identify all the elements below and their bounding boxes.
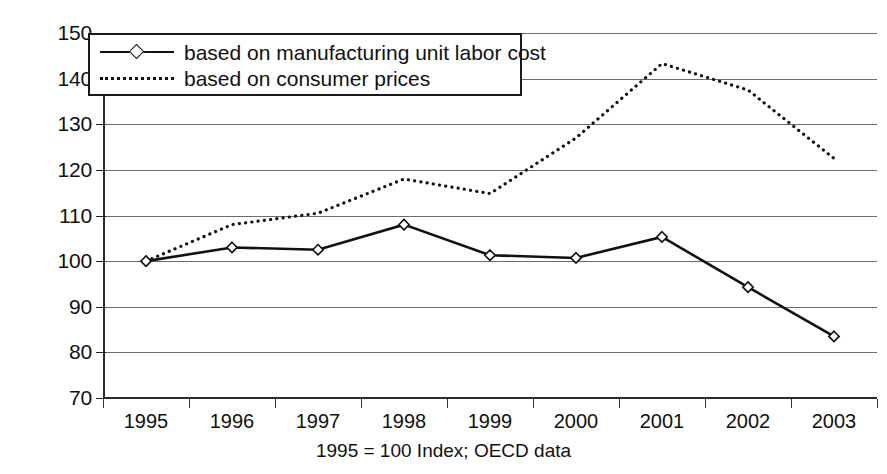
data-point-marker xyxy=(829,331,839,341)
legend-key-dotted-icon xyxy=(100,68,174,88)
data-point-marker xyxy=(571,253,581,263)
data-point-marker xyxy=(657,232,667,242)
legend-label-consumer-prices: based on consumer prices xyxy=(184,67,430,90)
chart-caption: 1995 = 100 Index; OECD data xyxy=(0,440,887,462)
legend-item-consumer-prices: based on consumer prices xyxy=(100,65,430,91)
series-line-manufacturing-unit-labor-cost xyxy=(146,225,834,337)
chart-figure: 150140130120110100908070 199519961997199… xyxy=(0,0,887,474)
legend-item-manufacturing: based on manufacturing unit labor cost xyxy=(100,39,546,65)
data-point-marker xyxy=(313,245,323,255)
legend-key-solid-diamond-icon xyxy=(100,42,174,62)
data-point-marker xyxy=(399,219,409,229)
chart-legend: based on manufacturing unit labor cost b… xyxy=(88,33,522,96)
legend-label-manufacturing: based on manufacturing unit labor cost xyxy=(184,41,546,64)
data-point-marker xyxy=(227,242,237,252)
data-point-marker xyxy=(743,282,753,292)
data-point-marker xyxy=(485,250,495,260)
data-point-marker xyxy=(141,256,151,266)
